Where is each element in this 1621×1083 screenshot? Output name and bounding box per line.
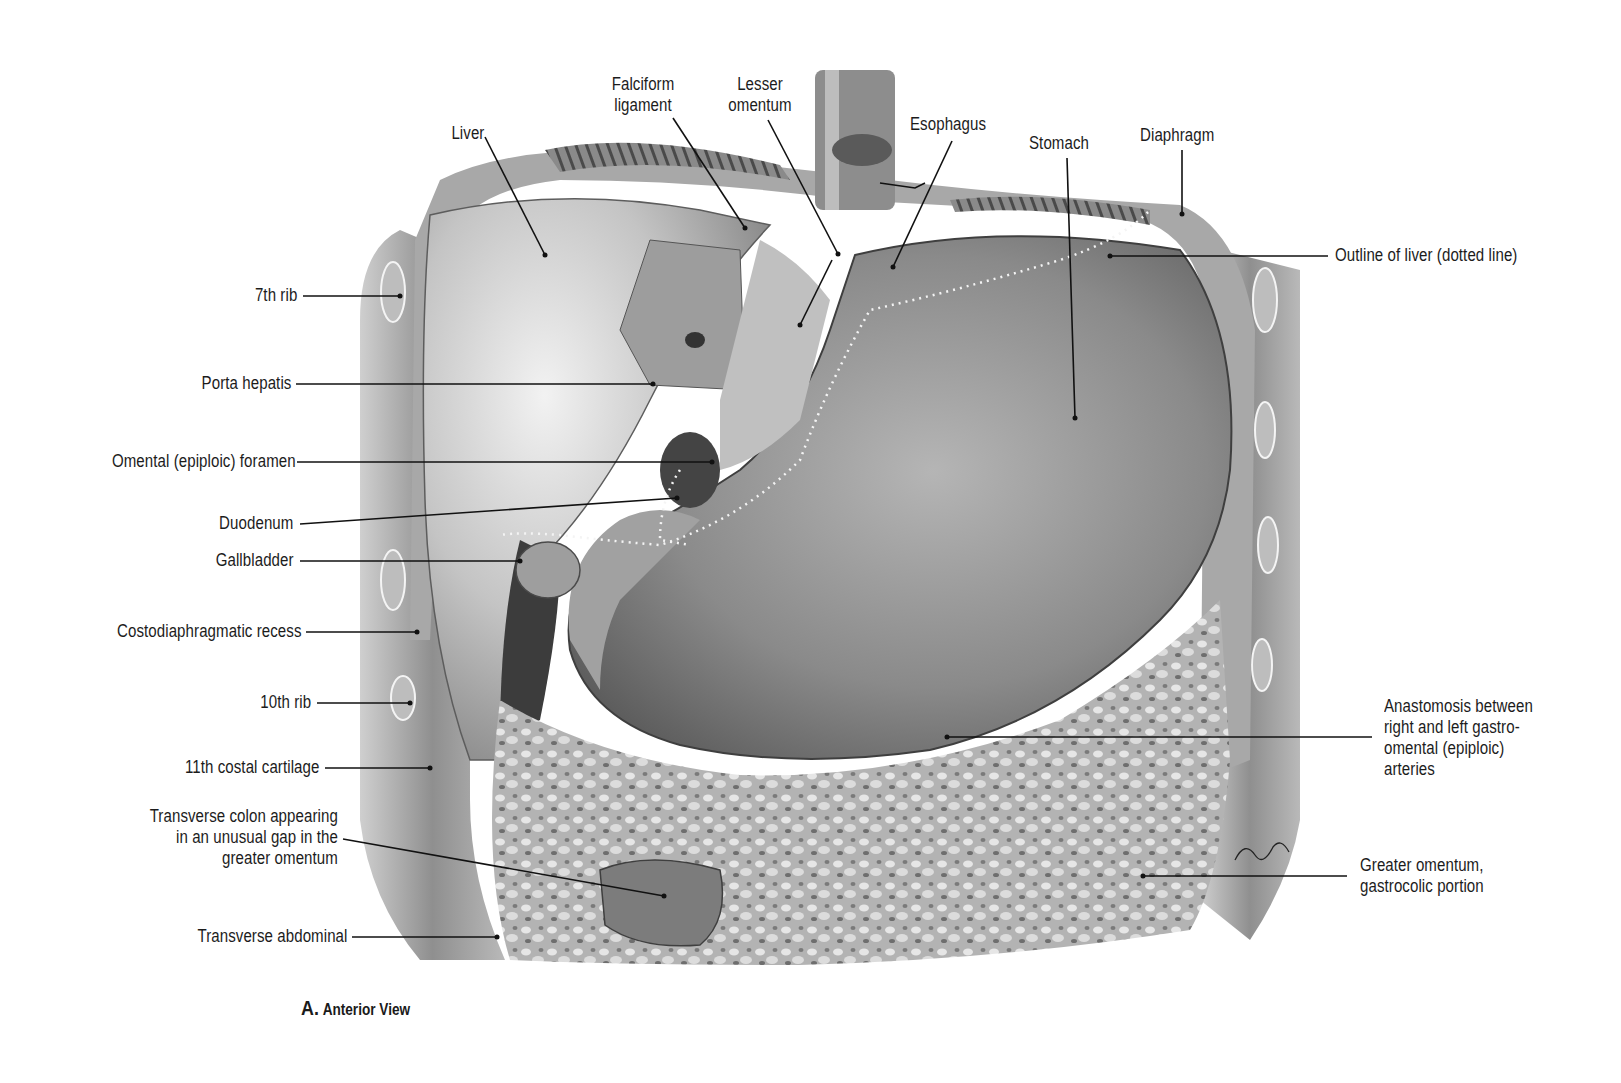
label-costodiaphragmatic-recess: Costodiaphragmatic recess [117, 621, 302, 642]
rib-7 [381, 262, 405, 322]
label-outline-of-liver: Outline of liver (dotted line) [1335, 245, 1517, 266]
figure-caption: A. Anterior View [301, 996, 410, 1020]
label-falciform-ligament: Falciform ligament [596, 74, 691, 116]
label-duodenum: Duodenum [219, 513, 293, 534]
label-transverse-colon: Transverse colon appearing in an unusual… [150, 806, 338, 869]
label-gallbladder: Gallbladder [216, 550, 294, 571]
anatomy-illustration [0, 0, 1621, 1083]
label-diaphragm: Diaphragm [1140, 125, 1214, 146]
label-7th-rib: 7th rib [255, 285, 297, 306]
rib-10 [391, 676, 415, 720]
label-transverse-abdominal: Transverse abdominal [197, 926, 347, 947]
caption-text: Anterior View [323, 1001, 410, 1018]
label-10th-rib: 10th rib [260, 692, 311, 713]
label-omental-foramen: Omental (epiploic) foramen [112, 451, 296, 472]
gallbladder [516, 542, 580, 598]
label-greater-omentum: Greater omentum, gastrocolic portion [1360, 855, 1484, 897]
label-liver: Liver [451, 123, 484, 144]
transverse-colon [600, 860, 723, 946]
label-lesser-omentum: Lesser omentum [717, 74, 803, 116]
label-stomach: Stomach [1029, 133, 1089, 154]
omental-foramen [660, 432, 720, 508]
label-porta-hepatis: Porta hepatis [201, 373, 291, 394]
label-anastomosis: Anastomosis between right and left gastr… [1384, 696, 1533, 780]
label-esophagus: Esophagus [910, 114, 986, 135]
caption-letter: A. [301, 996, 319, 1019]
label-11th-costal-cartilage: 11th costal cartilage [184, 757, 319, 778]
